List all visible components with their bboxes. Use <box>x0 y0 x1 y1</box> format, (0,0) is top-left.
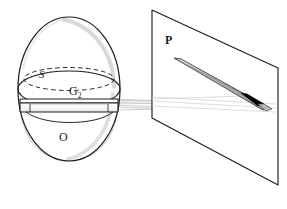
label-projection-plane: P <box>165 33 172 48</box>
label-internal-disk-subscript: 2 <box>78 91 82 100</box>
label-sphere-body: O <box>59 130 68 145</box>
label-internal-disk: G2 <box>69 84 82 100</box>
label-internal-disk-letter: G <box>69 84 78 98</box>
figure-canvas <box>0 0 287 209</box>
internal-disk-slab <box>20 99 118 123</box>
optical-projection-figure: S G2 O P <box>0 0 287 209</box>
label-sphere-surface: S <box>39 68 45 80</box>
